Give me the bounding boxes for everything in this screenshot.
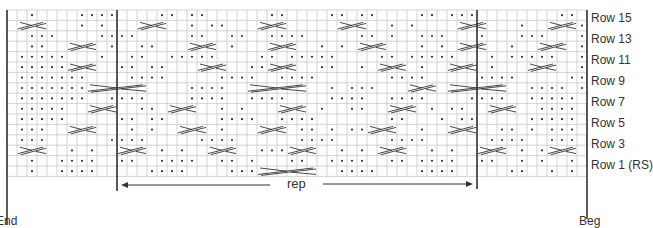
purl-dot-icon	[531, 35, 533, 37]
purl-dot-icon	[41, 139, 43, 141]
purl-dot-icon	[21, 77, 23, 79]
purl-dot-icon	[141, 139, 143, 141]
purl-dot-icon	[271, 149, 273, 151]
purl-dot-icon	[201, 139, 203, 141]
purl-dot-icon	[571, 160, 573, 162]
purl-dot-icon	[541, 97, 543, 99]
purl-dot-icon	[371, 170, 373, 172]
purl-dot-icon	[511, 170, 513, 172]
purl-dot-icon	[71, 77, 73, 79]
purl-dot-icon	[361, 160, 363, 162]
purl-dot-icon	[341, 97, 343, 99]
purl-dot-icon	[431, 149, 433, 151]
purl-dot-icon	[81, 25, 83, 27]
purl-dot-icon	[61, 97, 63, 99]
purl-dot-icon	[551, 129, 553, 131]
purl-dot-icon	[451, 108, 453, 110]
purl-dot-icon	[61, 87, 63, 89]
purl-dot-icon	[361, 66, 363, 68]
purl-dot-icon	[111, 97, 113, 99]
purl-dot-icon	[41, 97, 43, 99]
purl-dot-icon	[231, 35, 233, 37]
purl-dot-icon	[571, 108, 573, 110]
purl-dot-icon	[451, 170, 453, 172]
purl-dot-icon	[541, 87, 543, 89]
purl-dot-icon	[431, 160, 433, 162]
purl-dot-icon	[301, 129, 303, 131]
purl-dot-icon	[481, 35, 483, 37]
purl-dot-icon	[61, 66, 63, 68]
purl-dot-icon	[501, 139, 503, 141]
purl-dot-icon	[301, 77, 303, 79]
purl-dot-icon	[81, 170, 83, 172]
purl-dot-icon	[561, 108, 563, 110]
purl-dot-icon	[291, 118, 293, 120]
purl-dot-icon	[31, 139, 33, 141]
purl-dot-icon	[221, 139, 223, 141]
purl-dot-icon	[241, 170, 243, 172]
purl-dot-icon	[421, 170, 423, 172]
purl-dot-icon	[131, 77, 133, 79]
purl-dot-icon	[281, 149, 283, 151]
purl-dot-icon	[351, 129, 353, 131]
purl-dot-icon	[531, 97, 533, 99]
purl-dot-icon	[561, 129, 563, 131]
purl-dot-icon	[341, 170, 343, 172]
purl-dot-icon	[251, 97, 253, 99]
purl-dot-icon	[21, 66, 23, 68]
purl-dot-icon	[431, 56, 433, 58]
purl-dot-icon	[31, 108, 33, 110]
purl-dot-icon	[301, 118, 303, 120]
purl-dot-icon	[41, 129, 43, 131]
purl-dot-icon	[171, 56, 173, 58]
purl-dot-icon	[281, 97, 283, 99]
purl-dot-icon	[241, 77, 243, 79]
purl-dot-icon	[161, 170, 163, 172]
purl-dot-icon	[161, 118, 163, 120]
purl-dot-icon	[441, 170, 443, 172]
row-label-3: Row 3	[591, 137, 625, 151]
purl-dot-icon	[281, 77, 283, 79]
purl-dot-icon	[31, 97, 33, 99]
purl-dot-icon	[71, 160, 73, 162]
purl-dot-icon	[391, 139, 393, 141]
purl-dot-icon	[551, 87, 553, 89]
purl-dot-icon	[491, 56, 493, 58]
purl-dot-icon	[31, 87, 33, 89]
purl-dot-icon	[581, 45, 583, 47]
purl-dot-icon	[191, 25, 193, 27]
purl-dot-icon	[441, 118, 443, 120]
purl-dot-icon	[241, 118, 243, 120]
purl-dot-icon	[331, 14, 333, 16]
purl-dot-icon	[471, 118, 473, 120]
purl-dot-icon	[451, 14, 453, 16]
purl-dot-icon	[221, 25, 223, 27]
purl-dot-icon	[541, 35, 543, 37]
purl-dot-icon	[431, 170, 433, 172]
purl-dot-icon	[121, 35, 123, 37]
purl-dot-icon	[181, 149, 183, 151]
purl-dot-icon	[311, 77, 313, 79]
purl-dot-icon	[31, 35, 33, 37]
purl-dot-icon	[561, 87, 563, 89]
purl-dot-icon	[351, 160, 353, 162]
purl-dot-icon	[71, 149, 73, 151]
purl-dot-icon	[571, 139, 573, 141]
purl-dot-icon	[491, 77, 493, 79]
row-label-1-rs: Row 1 (RS)	[591, 158, 653, 172]
purl-dot-icon	[251, 170, 253, 172]
purl-dot-icon	[391, 118, 393, 120]
purl-dot-icon	[31, 56, 33, 58]
purl-dot-icon	[211, 56, 213, 58]
purl-dot-icon	[321, 139, 323, 141]
purl-dot-icon	[331, 139, 333, 141]
purl-dot-icon	[21, 108, 23, 110]
purl-dot-icon	[361, 14, 363, 16]
purl-dot-icon	[61, 77, 63, 79]
purl-dot-icon	[331, 66, 333, 68]
purl-dot-icon	[371, 35, 373, 37]
purl-dot-icon	[281, 14, 283, 16]
purl-dot-icon	[31, 129, 33, 131]
purl-dot-icon	[201, 97, 203, 99]
purl-dot-icon	[541, 108, 543, 110]
